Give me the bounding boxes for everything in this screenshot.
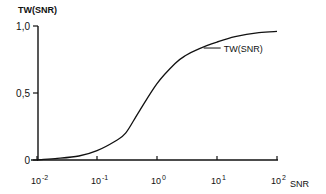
x-tick-label: 102: [271, 174, 286, 186]
y-tick-label: 0,5: [16, 88, 30, 99]
y-axis-label: TW(SNR): [18, 5, 57, 15]
x-tick-label: 10-1: [91, 174, 108, 186]
x-tick-label: 10-2: [31, 174, 48, 186]
x-axis-label: SNR: [290, 179, 310, 189]
y-ticks: 00,51,0: [16, 21, 38, 166]
x-tick-label: 100: [151, 174, 166, 186]
y-tick-label: 0: [24, 155, 30, 166]
y-tick-label: 1,0: [16, 21, 30, 32]
chart: TW(SNR) 00,51,0 10-210-1100101102 SNR TW…: [0, 0, 326, 194]
series-annotation-label: TW(SNR): [224, 44, 263, 54]
x-tick-label: 101: [211, 174, 226, 186]
